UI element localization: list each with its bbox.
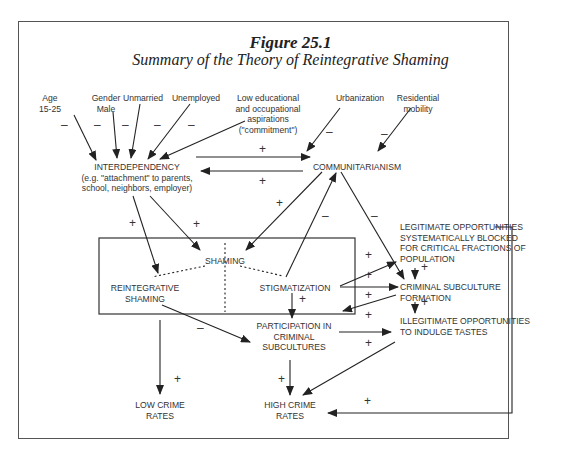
sign-minus: – xyxy=(197,322,204,334)
node-urbanization: Urbanization xyxy=(330,93,390,104)
node-unmarried: Unmarried xyxy=(120,93,166,104)
node-age: Age15-25 xyxy=(33,93,67,114)
node-participation: PARTICIPATION INCRIMINALSUBCULTURES xyxy=(250,321,338,353)
node-stigmatization: STIGMATIZATION xyxy=(254,283,336,294)
node-low-crime-rates: LOW CRIMERATES xyxy=(130,400,190,421)
sign-minus: – xyxy=(61,119,68,131)
node-unemployed: Unemployed xyxy=(168,93,224,104)
node-legitimate-opportunities-blocked: LEGITIMATE OPPORTUNITIESSYSTEMATICALLY B… xyxy=(400,222,520,264)
node-shaming: SHAMING xyxy=(200,256,250,267)
sign-plus: + xyxy=(365,269,372,281)
sign-minus: – xyxy=(371,210,378,222)
sign-plus: + xyxy=(364,395,371,407)
sign-plus: + xyxy=(421,296,428,308)
sign-plus: + xyxy=(129,217,136,229)
sign-plus: + xyxy=(259,175,266,187)
sign-minus: – xyxy=(94,119,101,131)
sign-plus: + xyxy=(365,337,372,349)
sign-minus: – xyxy=(322,210,329,222)
sign-minus: – xyxy=(381,128,388,140)
sign-plus: + xyxy=(278,373,285,385)
sign-plus: + xyxy=(365,249,372,261)
sign-minus: – xyxy=(326,126,333,138)
sign-plus: + xyxy=(276,197,283,209)
node-reintegrative-shaming: REINTEGRATIVESHAMING xyxy=(105,283,185,304)
sign-minus: – xyxy=(154,119,161,131)
node-low-aspirations: Low educationaland occupationalaspiratio… xyxy=(227,93,309,135)
sign-minus: – xyxy=(188,119,195,131)
sign-plus: + xyxy=(421,261,428,273)
sign-minus: – xyxy=(122,119,129,131)
node-illegitimate-opportunities: ILLEGITIMATE OPPORTUNITIESTO INDULGE TAS… xyxy=(400,316,520,337)
node-criminal-subculture-formation: CRIMINAL SUBCULTUREFORMATION xyxy=(400,282,510,303)
sign-plus: + xyxy=(259,143,266,155)
sign-plus: + xyxy=(365,289,372,301)
node-interdependency: INTERDEPENDENCY(e.g. "attachment" to par… xyxy=(78,162,196,194)
node-high-crime-rates: HIGH CRIMERATES xyxy=(260,400,320,421)
node-residential-mobility: Residentialmobility xyxy=(393,93,443,114)
sign-plus: + xyxy=(365,309,372,321)
sign-plus: + xyxy=(174,373,181,385)
node-communitarianism: COMMUNITARIANISM xyxy=(312,162,402,173)
node-gender-male: GenderMale xyxy=(88,93,124,114)
sign-plus: + xyxy=(193,218,200,230)
sign-plus: + xyxy=(299,293,306,305)
